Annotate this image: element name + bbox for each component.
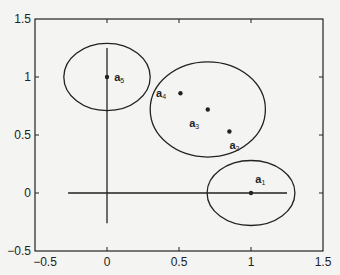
point-label-a2: a2 <box>229 139 239 152</box>
x-tick-label: 0.5 <box>171 255 188 269</box>
point-label-a1: a1 <box>255 173 265 186</box>
data-point-a2 <box>227 129 231 133</box>
point-label-a3: a3 <box>189 117 199 130</box>
data-point-a5 <box>105 75 109 79</box>
data-point-a4 <box>178 91 182 95</box>
y-tick-label: 1 <box>24 70 31 84</box>
x-tick-label: 1 <box>248 255 255 269</box>
data-point-a3 <box>206 107 210 111</box>
plot-area: −0.500.511.5−0.500.511.5a1a2a3a4a5 <box>7 12 331 269</box>
y-tick-label: 0.5 <box>14 128 31 142</box>
y-tick-label: 0 <box>24 186 31 200</box>
axes-frame <box>35 19 323 251</box>
x-tick-label: 0 <box>104 255 111 269</box>
chart: −0.500.511.5−0.500.511.5a1a2a3a4a5 <box>0 0 340 275</box>
data-point-a1 <box>249 191 253 195</box>
y-tick-label: 1.5 <box>14 12 31 26</box>
point-label-a4: a4 <box>156 87 166 100</box>
y-tick-label: −0.5 <box>7 244 31 258</box>
x-tick-label: 1.5 <box>315 255 332 269</box>
x-tick-label: −0.5 <box>33 255 57 269</box>
point-label-a5: a5 <box>114 71 124 84</box>
